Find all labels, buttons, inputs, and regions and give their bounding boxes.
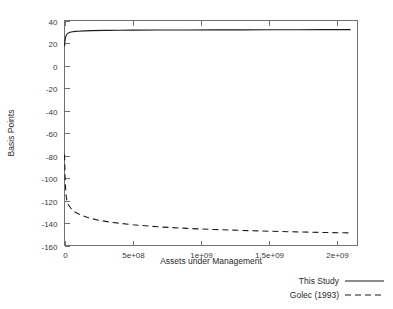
y-tick-label: -80 xyxy=(46,153,58,162)
y-tick-label: -120 xyxy=(41,198,58,207)
y-tick-label: -60 xyxy=(46,130,58,139)
x-tick-label: 2e+09 xyxy=(326,251,349,260)
series-line-golec-1993 xyxy=(65,154,351,233)
y-tick-label: 20 xyxy=(49,40,58,49)
y-axis-tick-labels: -160-140-120-100-80-60-40-2002040 xyxy=(41,18,58,252)
y-axis-title: Basis Points xyxy=(6,110,16,157)
line-chart: -160-140-120-100-80-60-40-2002040 05e+08… xyxy=(0,0,393,309)
x-axis-title: Assets under Management xyxy=(160,256,262,266)
y-tick-label: 0 xyxy=(53,63,58,72)
legend-label-this-study: This Study xyxy=(299,276,340,286)
legend-label-golec-1993: Golec (1993) xyxy=(290,290,339,300)
chart-legend: This Study Golec (1993) xyxy=(290,276,384,300)
chart-figure: -160-140-120-100-80-60-40-2002040 05e+08… xyxy=(0,0,393,309)
x-axis-ticks xyxy=(66,21,338,246)
x-tick-label: 5e+08 xyxy=(122,251,145,260)
y-tick-label: -160 xyxy=(41,243,58,252)
series-line-this-study xyxy=(65,30,351,47)
y-tick-label: 40 xyxy=(49,18,58,27)
y-tick-label: -20 xyxy=(46,85,58,94)
y-tick-label: -140 xyxy=(41,220,58,229)
plot-frame xyxy=(65,21,358,246)
y-tick-label: -100 xyxy=(41,175,58,184)
y-tick-label: -40 xyxy=(46,108,58,117)
y-axis-ticks xyxy=(65,22,70,247)
x-tick-label: 0 xyxy=(63,251,68,260)
